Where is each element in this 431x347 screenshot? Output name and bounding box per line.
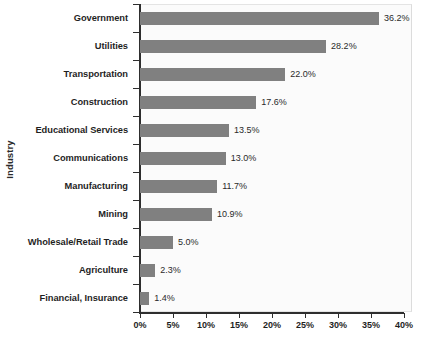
bar-row: 13.0%: [140, 144, 256, 172]
x-axis-tick-label: 40%: [395, 320, 413, 330]
category-label: Utilities: [18, 32, 134, 60]
bar-value-label: 10.9%: [217, 209, 243, 219]
x-axis-tick: [272, 313, 273, 318]
bar-row: 2.3%: [140, 256, 181, 284]
category-label: Government: [18, 4, 134, 32]
bar-value-label: 36.2%: [384, 13, 410, 23]
bar-value-label: 5.0%: [178, 237, 199, 247]
category-label: Agriculture: [18, 256, 134, 284]
y-axis-tick: [133, 172, 139, 173]
x-axis-tick-label: 0%: [133, 320, 146, 330]
x-axis-tick-label: 35%: [362, 320, 380, 330]
x-axis-tick: [239, 313, 240, 318]
x-axis-tick-label: 20%: [263, 320, 281, 330]
bar: [140, 292, 149, 305]
y-axis-tick: [133, 60, 139, 61]
category-label: Construction: [18, 88, 134, 116]
x-axis-tick: [404, 313, 405, 318]
bar-value-label: 11.7%: [222, 181, 247, 191]
bar-value-label: 22.0%: [290, 69, 316, 79]
category-label: Educational Services: [18, 116, 134, 144]
bar-row: 5.0%: [140, 228, 199, 256]
x-axis-tick-label: 15%: [230, 320, 248, 330]
bar: [140, 40, 326, 53]
x-axis-tick-label: 30%: [329, 320, 347, 330]
x-axis-tick: [371, 313, 372, 318]
category-label: Manufacturing: [18, 172, 134, 200]
category-label: Transportation: [18, 60, 134, 88]
bar-row: 11.7%: [140, 172, 247, 200]
bar-value-label: 28.2%: [331, 41, 357, 51]
x-axis-tick-label: 10%: [197, 320, 215, 330]
bar: [140, 152, 226, 165]
category-label: Wholesale/Retail Trade: [18, 228, 134, 256]
category-label: Financial, Insurance: [18, 284, 134, 312]
y-axis-tick: [133, 116, 139, 117]
x-axis-tick: [305, 313, 306, 318]
y-axis-tick: [133, 200, 139, 201]
y-axis-tick: [133, 4, 139, 5]
x-axis-tick-label: 5%: [166, 320, 179, 330]
bar: [140, 208, 212, 221]
y-axis-tick: [133, 284, 139, 285]
bar: [140, 236, 173, 249]
y-axis-tick: [133, 256, 139, 257]
bar-row: 22.0%: [140, 60, 316, 88]
x-axis-tick-label: 25%: [296, 320, 314, 330]
bar: [140, 12, 379, 25]
bar: [140, 264, 155, 277]
bar: [140, 96, 256, 109]
bar-row: 17.6%: [140, 88, 287, 116]
y-axis-tick: [133, 88, 139, 89]
y-axis-title-text: Industry: [4, 140, 15, 178]
bar: [140, 124, 229, 137]
bar-value-label: 2.3%: [160, 265, 181, 275]
y-axis-tick: [133, 144, 139, 145]
x-axis-tick: [206, 313, 207, 318]
category-label: Communications: [18, 144, 134, 172]
category-axis-labels: GovernmentUtilitiesTransportationConstru…: [18, 4, 134, 312]
x-axis-tick: [140, 313, 141, 318]
bar: [140, 68, 285, 81]
bar-value-label: 13.5%: [234, 125, 260, 135]
x-axis-tick: [173, 313, 174, 318]
bar-value-label: 13.0%: [231, 153, 257, 163]
bar-row: 36.2%: [140, 4, 409, 32]
bar-row: 1.4%: [140, 284, 175, 312]
bar-row: 13.5%: [140, 116, 260, 144]
x-axis-tick: [338, 313, 339, 318]
y-axis-title: Industry: [0, 0, 18, 318]
bar-value-label: 1.4%: [154, 293, 175, 303]
bars-layer: 36.2%28.2%22.0%17.6%13.5%13.0%11.7%10.9%…: [140, 4, 412, 312]
y-axis-tick: [133, 228, 139, 229]
y-axis-tick: [133, 32, 139, 33]
bar: [140, 180, 217, 193]
bar-value-label: 17.6%: [261, 97, 287, 107]
bar-chart: Industry GovernmentUtilitiesTransportati…: [0, 0, 431, 347]
bar-row: 10.9%: [140, 200, 242, 228]
y-axis-tick: [133, 312, 139, 313]
bar-row: 28.2%: [140, 32, 357, 60]
category-label: Mining: [18, 200, 134, 228]
